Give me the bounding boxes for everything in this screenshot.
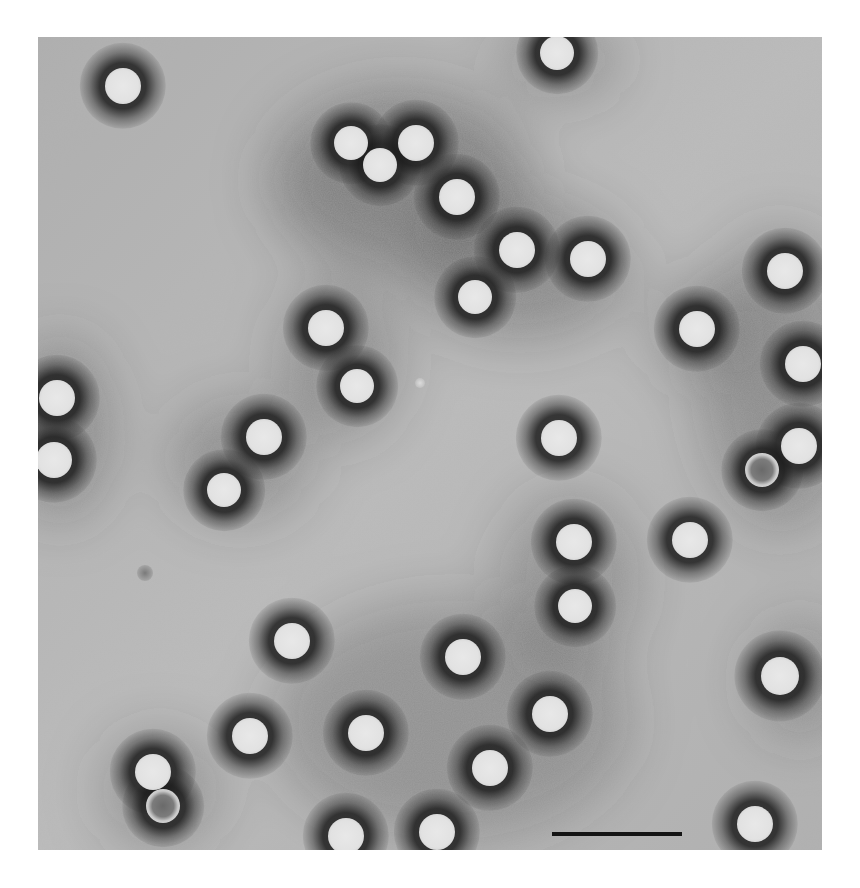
empty-capsid-particle xyxy=(745,453,779,487)
virus-particle xyxy=(445,639,481,675)
virus-particle xyxy=(767,253,803,289)
virus-particle xyxy=(558,589,592,623)
virus-particle xyxy=(532,696,568,732)
virus-particle xyxy=(274,623,310,659)
debris-speck xyxy=(415,378,425,388)
virus-particle xyxy=(737,806,773,842)
virus-particle xyxy=(328,818,364,850)
virus-particle xyxy=(540,37,574,70)
electron-micrograph xyxy=(38,37,822,850)
virus-particle xyxy=(334,126,368,160)
virus-particle xyxy=(785,346,821,382)
debris-speck xyxy=(137,565,153,581)
virus-particle xyxy=(672,522,708,558)
virus-particle xyxy=(398,125,434,161)
virus-particle xyxy=(232,718,268,754)
virus-particle xyxy=(246,419,282,455)
virus-particle xyxy=(308,310,344,346)
virus-particle xyxy=(679,311,715,347)
virus-particle xyxy=(419,814,455,850)
scale-bar xyxy=(552,832,682,836)
virus-particle xyxy=(340,369,374,403)
virus-particle xyxy=(207,473,241,507)
virus-particle xyxy=(105,68,141,104)
virus-particle xyxy=(135,754,171,790)
virus-particle xyxy=(348,715,384,751)
virus-particle xyxy=(556,524,592,560)
virus-particle xyxy=(499,232,535,268)
virus-particle xyxy=(472,750,508,786)
virus-particle xyxy=(781,428,817,464)
virus-particle xyxy=(458,280,492,314)
virus-particle xyxy=(570,241,606,277)
virus-particle xyxy=(39,380,75,416)
empty-capsid-particle xyxy=(146,789,180,823)
virus-particle xyxy=(439,179,475,215)
virus-particle xyxy=(761,657,799,695)
virus-particle xyxy=(363,148,397,182)
stain-background xyxy=(38,37,822,850)
virus-particle xyxy=(541,420,577,456)
